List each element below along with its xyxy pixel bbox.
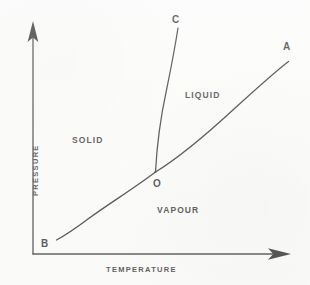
point-label-b: B xyxy=(41,238,49,249)
region-label-solid: SOLID xyxy=(72,135,103,145)
y-axis-label-pressure: PRESSURE xyxy=(31,144,40,196)
region-label-liquid: LIQUID xyxy=(185,90,220,100)
x-axis-label-temperature: TEMPERATURE xyxy=(106,265,177,274)
fusion-curve-oc xyxy=(156,28,179,172)
point-label-a: A xyxy=(283,41,291,52)
triple-point-marker xyxy=(155,171,157,173)
region-label-vapour: VAPOUR xyxy=(157,205,199,215)
vaporization-curve-oa xyxy=(156,62,289,173)
point-label-o-triple-point: O xyxy=(153,178,161,189)
phase-diagram-figure: SOLID LIQUID VAPOUR A B C O PRESSURE TEM… xyxy=(0,0,310,285)
point-label-c: C xyxy=(172,14,180,25)
sublimation-curve-ob xyxy=(57,172,156,240)
